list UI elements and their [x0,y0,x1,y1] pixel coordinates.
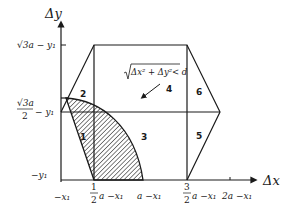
diagram-canvas: Δx² + Δy² < d 2 1 3 4 5 6 Δy Δx √3a − y₁… [0,0,295,219]
region-label-6: 6 [196,87,202,97]
x-tick-denominator-3: 2 [184,195,190,205]
y-tick-denominator: 2 [22,111,28,121]
x-axis-label: Δx [262,173,280,188]
formula-rhs: < d [172,67,188,77]
x-tick-numerator-3: 3 [184,182,190,192]
x-tick-label-three-half-a: 3 2 a −x₁ [183,182,216,205]
x-tick-suffix-3: a −x₁ [192,191,216,201]
region-label-2: 2 [80,89,86,99]
annotation-arrow [143,84,160,97]
x-tick-suffix-1: a −x₁ [99,191,123,201]
y-tick-label-neg-y1: −y₁ [31,170,47,180]
region-label-1: 1 [80,132,86,142]
hatched-region [66,98,143,180]
x-tick-label-2a: 2a −x₁ [221,191,252,201]
distance-formula: Δx² + Δy² < d [124,64,188,79]
x-tick-label-half-a: 1 2 a −x₁ [90,182,123,205]
y-axis-label: Δy [44,6,62,21]
formula-radicand: Δx² + Δy² [130,67,173,77]
region-label-4: 4 [166,84,172,94]
x-tick-label-neg-x1: −x₁ [54,192,70,202]
region-label-3: 3 [141,132,147,142]
x-tick-numerator-1: 1 [91,182,97,192]
x-tick-denominator-1: 2 [91,195,97,205]
x-tick-label-a: a −x₁ [137,191,161,201]
region-label-5: 5 [196,131,202,141]
y-tick-numerator: √3a [17,98,34,108]
y-tick-label-sqrt3a: √3a − y₁ [17,40,56,50]
y-tick-label-half-sqrt3a: √3a 2 − y₁ [17,98,54,121]
y-tick-suffix: − y₁ [35,107,54,117]
